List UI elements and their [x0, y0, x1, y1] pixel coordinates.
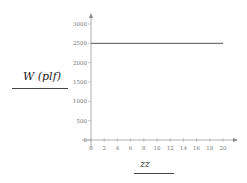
x-tick-label: 20	[220, 145, 227, 151]
x-axis: 02468101214161820	[82, 138, 238, 151]
x-tick-label: 12	[167, 145, 174, 151]
x-tick-label: 10	[154, 145, 161, 151]
y-tick-label: 3000	[73, 21, 87, 27]
y-tick-label: 1000	[73, 98, 87, 104]
y-tick-label: 2500	[73, 40, 87, 46]
line-chart: 050010001500200025003000 024681012141618…	[0, 0, 247, 183]
x-tick-label: 8	[142, 145, 146, 151]
y-tick-label: 1500	[73, 79, 87, 85]
y-tick-label: 2000	[73, 60, 87, 66]
x-tick-label: 14	[180, 145, 187, 151]
x-axis-label-underline	[134, 173, 174, 174]
x-tick-label: 16	[193, 145, 200, 151]
x-tick-label: 0	[89, 145, 93, 151]
y-axis: 050010001500200025003000	[73, 13, 93, 148]
x-tick-label: 6	[129, 145, 133, 151]
y-tick-label: 500	[77, 118, 88, 124]
x-tick-label: 4	[116, 145, 120, 151]
x-axis-label: zz	[130, 159, 160, 169]
x-tick-label: 18	[206, 145, 213, 151]
x-tick-label: 2	[102, 145, 106, 151]
